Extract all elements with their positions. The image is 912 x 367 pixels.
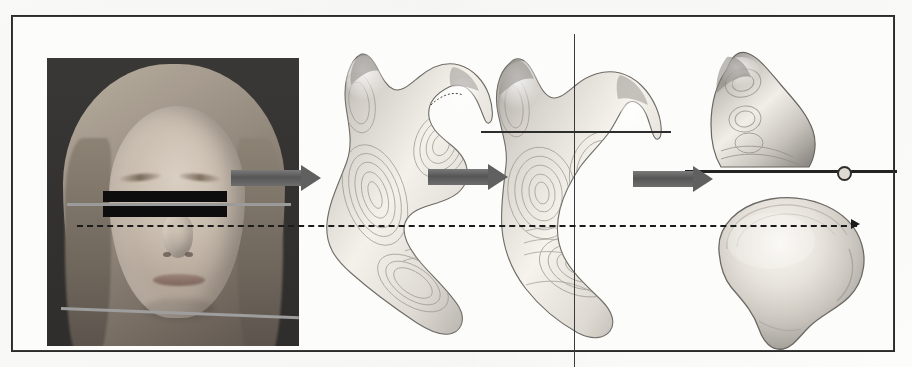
- nostril-left: [163, 252, 171, 257]
- figure-root: patient frontal facial photograph: [0, 0, 912, 367]
- figure-frame: patient frontal facial photograph: [11, 15, 895, 352]
- arrow-photo-to-mandible: [231, 165, 323, 191]
- mandible-oblique-alt-text: 3D mandible oblique view: [313, 345, 314, 346]
- mandible-aligned-alt-text: 3D mandible aligned to reference axes: [468, 345, 469, 346]
- horizontal-registration-arrowhead: [851, 219, 860, 229]
- chin-shadow: [143, 298, 215, 320]
- arrow-mandible-to-aligned: [428, 164, 510, 190]
- arrow-head: [301, 165, 321, 191]
- arrow-shaft: [633, 171, 695, 187]
- cut-plane-node: [837, 166, 852, 181]
- nostril-right: [185, 252, 193, 257]
- mandible-aligned-view: 3D mandible aligned to reference axes: [468, 45, 688, 345]
- arrow-head: [693, 166, 713, 192]
- patient-photograph: patient frontal facial photograph: [47, 58, 299, 346]
- arrow-aligned-to-condyle: [633, 166, 715, 192]
- condyle-cross-section: condyle head cross section: [697, 189, 887, 354]
- vertical-panel-divider: [574, 34, 575, 367]
- horizontal-registration-line: [77, 225, 857, 227]
- arrow-shaft: [231, 170, 303, 186]
- mouth: [153, 274, 205, 286]
- arrow-shaft: [428, 169, 490, 185]
- axial-crosshair-line: [481, 131, 671, 133]
- condyle-cut-plane-line: [685, 170, 897, 173]
- eye-censor-bar-upper: [103, 191, 227, 202]
- eye-censor-bar-lower: [103, 206, 227, 217]
- condyle-isolated-view: isolated mandibular condyle: [697, 39, 877, 179]
- arrow-head: [488, 164, 508, 190]
- interpupillary-reference-line: [67, 203, 291, 206]
